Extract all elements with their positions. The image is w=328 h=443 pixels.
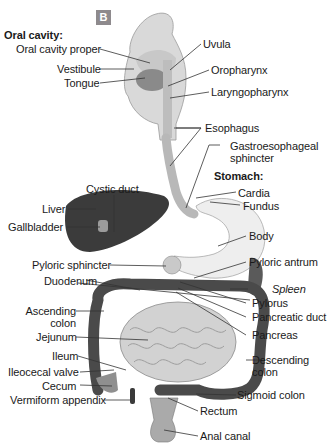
liver-illustration bbox=[65, 190, 169, 252]
digestive-system-diagram: B Oral cavity: Oral cavity proper Vestib… bbox=[0, 0, 328, 443]
label-oral-cavity-proper: Oral cavity proper bbox=[16, 43, 101, 55]
label-gallbladder: Gallbladder bbox=[8, 221, 63, 233]
label-cardia: Cardia bbox=[238, 187, 270, 199]
label-gastroesophageal-line1: Gastroesophageal bbox=[230, 140, 318, 152]
label-ileum: Ileum bbox=[52, 350, 78, 362]
label-ascending-colon-line1: Ascending bbox=[24, 305, 76, 317]
label-pancreatic-duct: Pancreatic duct bbox=[252, 311, 326, 323]
label-vermiform-appendix: Vermiform appendix bbox=[10, 394, 106, 406]
label-oropharynx: Oropharynx bbox=[211, 64, 267, 76]
label-laryngopharynx: Laryngopharynx bbox=[211, 86, 289, 98]
label-anal-canal: Anal canal bbox=[200, 430, 250, 442]
label-jejunum: Jejunum bbox=[36, 331, 77, 343]
label-pylorus: Pylorus bbox=[252, 297, 288, 309]
label-pyloric-sphincter: Pyloric sphincter bbox=[32, 259, 111, 271]
panel-badge: B bbox=[96, 10, 111, 25]
label-esophagus: Esophagus bbox=[205, 122, 259, 134]
head-section-illustration bbox=[124, 13, 186, 140]
label-stomach-heading: Stomach: bbox=[214, 170, 263, 182]
esophagus-illustration bbox=[166, 138, 194, 214]
label-cecum: Cecum bbox=[42, 380, 76, 392]
label-vestibule: Vestibule bbox=[57, 63, 101, 75]
rectum-illustration bbox=[150, 398, 178, 442]
small-intestine-illustration bbox=[120, 302, 236, 382]
label-pancreas: Pancreas bbox=[252, 329, 298, 341]
label-cystic-duct: Cystic duct bbox=[86, 183, 139, 195]
label-pyloric-antrum: Pyloric antrum bbox=[249, 256, 318, 268]
label-descending-colon-line1: Descending bbox=[252, 354, 309, 366]
label-fundus: Fundus bbox=[243, 200, 279, 212]
label-rectum: Rectum bbox=[200, 405, 237, 417]
label-duodenum: Duodenum bbox=[44, 275, 97, 287]
label-uvula: Uvula bbox=[203, 38, 231, 50]
label-ileocecal-valve: Ileocecal valve bbox=[8, 366, 79, 378]
label-body: Body bbox=[249, 230, 274, 242]
label-gastroesophageal-line2: sphincter bbox=[230, 152, 274, 164]
label-descending-colon-line2: colon bbox=[252, 366, 278, 378]
label-ascending-colon-line2: colon bbox=[24, 317, 76, 329]
label-liver: Liver bbox=[42, 203, 65, 215]
label-spleen: Spleen bbox=[272, 283, 306, 295]
label-sigmoid-colon: Sigmoid colon bbox=[237, 389, 305, 401]
label-oral-cavity-heading: Oral cavity: bbox=[4, 29, 63, 41]
label-tongue: Tongue bbox=[64, 77, 100, 89]
